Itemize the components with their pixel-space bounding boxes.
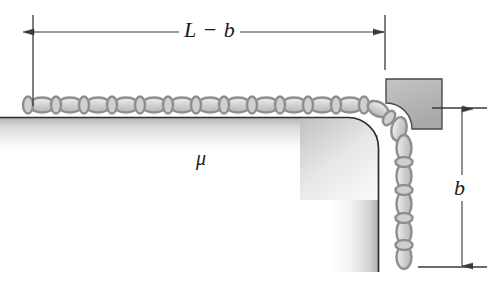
hanging-chain [396, 135, 413, 269]
table-corner-shading [300, 118, 378, 200]
table [0, 118, 379, 273]
figure-canvas [0, 0, 502, 283]
friction-coefficient-label: μ [196, 148, 206, 168]
vertical-dimension-label: b [450, 175, 469, 201]
physics-figure-chain-on-table: L − b b μ [0, 0, 502, 283]
chain-on-table [23, 97, 369, 114]
horizontal-dimension-label: L − b [179, 19, 240, 41]
